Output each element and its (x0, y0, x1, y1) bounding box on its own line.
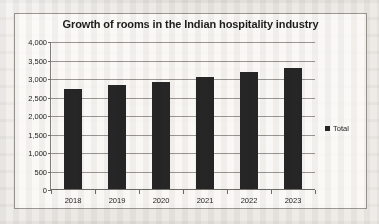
x-tick-slot: 2022 (227, 42, 271, 190)
chart-title: Growth of rooms in the Indian hospitalit… (15, 18, 366, 30)
plot-area: 4,0003,5003,0002,5002,0001,5001,0005000 … (50, 42, 315, 190)
scanned-page-background: Growth of rooms in the Indian hospitalit… (0, 0, 379, 224)
x-tick-slot: 2020 (139, 42, 183, 190)
x-tick-slot: 2021 (183, 42, 227, 190)
x-tick-mark (183, 190, 184, 194)
x-tick-slot: 2018 (51, 42, 95, 190)
x-tick-mark (95, 190, 96, 194)
y-tick-label: 2,500 (28, 93, 47, 102)
square-marker-icon (325, 126, 330, 131)
y-tick-label: 3,000 (28, 75, 47, 84)
y-tick-label: 1,000 (28, 149, 47, 158)
y-tick-label: 500 (34, 167, 47, 176)
x-tick-mark (315, 190, 316, 194)
x-tick-label-2019: 2019 (109, 196, 126, 205)
x-tick-label-2018: 2018 (65, 196, 82, 205)
y-tick-label: 1,500 (28, 130, 47, 139)
y-tick-label: 4,000 (28, 38, 47, 47)
x-tick-slot: 2019 (95, 42, 139, 190)
x-tick-mark (139, 190, 140, 194)
x-tick-label-2021: 2021 (197, 196, 214, 205)
chart-container: Growth of rooms in the Indian hospitalit… (14, 13, 367, 209)
legend-label-total: Total (333, 124, 349, 133)
y-tick-label: 0 (43, 186, 47, 195)
x-tick-label-2023: 2023 (285, 196, 302, 205)
x-tick-label-2020: 2020 (153, 196, 170, 205)
x-tick-slot: 2023 (271, 42, 315, 190)
x-tick-mark (271, 190, 272, 194)
y-tick-label: 2,000 (28, 112, 47, 121)
x-tick-mark (227, 190, 228, 194)
chart-legend: Total (325, 124, 349, 133)
y-tick-label: 3,500 (28, 56, 47, 65)
x-tick-label-2022: 2022 (241, 196, 258, 205)
x-tick-mark (51, 190, 52, 194)
